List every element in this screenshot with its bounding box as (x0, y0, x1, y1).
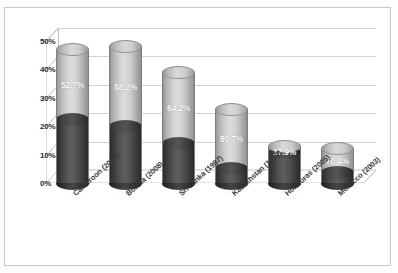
bar-value-label: 80.7% (215, 134, 248, 144)
bar-value-label: 64.2% (162, 103, 195, 113)
gridline (58, 85, 376, 86)
bar-top-ellipse (215, 103, 248, 116)
bar-segment-divider (109, 120, 142, 133)
bar-top-ellipse (56, 43, 89, 56)
bar-segment-lower (56, 120, 89, 183)
gridline (58, 28, 376, 29)
chart-title (0, 0, 398, 1)
bar-value-label: 52.7% (56, 80, 89, 90)
bar-4[interactable]: 80.7% (215, 103, 248, 183)
bar-1[interactable]: 52.7% (56, 43, 89, 183)
chart-container: 0%10%20%30%40%50% 52.7%58.2%64.2%80.7%17… (0, 0, 398, 273)
gridline (58, 56, 376, 57)
bar-segment-divider (162, 137, 195, 150)
bar-value-label: 58.2% (109, 82, 142, 92)
bar-3[interactable]: 64.2% (162, 66, 195, 183)
